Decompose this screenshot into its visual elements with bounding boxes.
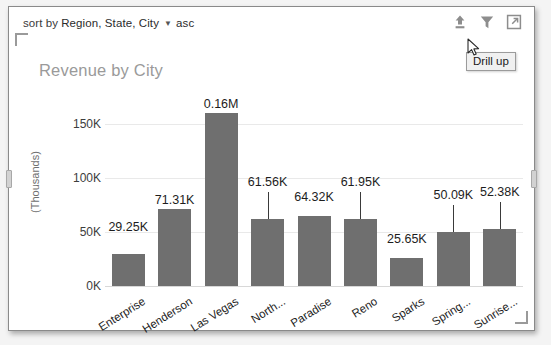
label-leader-line <box>500 202 501 229</box>
y-axis-tick-label: 100K <box>73 171 101 185</box>
gridline <box>105 124 523 125</box>
label-leader-line <box>268 192 269 219</box>
x-axis-category-label[interactable]: Sparks <box>390 295 427 324</box>
x-axis-category-label[interactable]: Las Vegas <box>188 295 240 334</box>
y-axis-title: (Thousands) <box>29 151 41 213</box>
bar-data-label: 50.09K <box>434 188 474 202</box>
bar-data-label: 25.65K <box>387 232 427 246</box>
bar-data-label: 29.25K <box>108 220 148 234</box>
bar[interactable] <box>390 258 423 286</box>
x-axis-category-label[interactable]: Reno <box>350 295 380 320</box>
gridline <box>105 286 523 287</box>
x-axis-category-label[interactable]: Henderson <box>140 295 194 335</box>
drill-up-tooltip: Drill up <box>466 52 516 71</box>
x-axis-category-label[interactable]: Enterprise <box>97 295 148 333</box>
y-axis-tick-label: 150K <box>73 117 101 131</box>
x-axis-category-label[interactable]: North... <box>249 295 287 325</box>
x-axis-category-label[interactable]: Sunrise... <box>472 295 520 331</box>
screenshot-root: sort byRegion, State, City▼asc <box>0 0 551 345</box>
bar-data-label: 71.31K <box>155 193 195 207</box>
bar[interactable] <box>437 232 470 286</box>
chart-plot-area[interactable]: (Thousands) 0K50K100K150K 29.25K71.31K0.… <box>9 7 536 332</box>
bar[interactable] <box>112 254 145 286</box>
x-axis-category-label[interactable]: Paradise <box>289 295 334 329</box>
resize-handle-top-left[interactable] <box>15 33 28 46</box>
bar-data-label: 52.38K <box>480 185 520 199</box>
bar-data-label: 0.16M <box>204 97 239 111</box>
bar[interactable] <box>251 219 284 286</box>
bar[interactable] <box>344 219 377 286</box>
bar-data-label: 61.95K <box>341 175 381 189</box>
y-axis-tick-label: 50K <box>80 225 101 239</box>
bar-data-label: 64.32K <box>294 190 334 204</box>
bar[interactable] <box>483 229 516 286</box>
bar[interactable] <box>298 216 331 286</box>
resize-handle-left[interactable] <box>6 170 12 188</box>
y-axis-ticks: 0K50K100K150K <box>45 7 101 332</box>
chart-visual-container[interactable]: sort byRegion, State, City▼asc <box>8 6 535 331</box>
bar[interactable] <box>205 113 238 286</box>
label-leader-line <box>360 192 361 219</box>
resize-handle-right[interactable] <box>531 170 537 188</box>
resize-handle-bottom-right[interactable] <box>515 311 528 324</box>
label-leader-line <box>453 205 454 232</box>
gridline <box>105 178 523 179</box>
y-axis-tick-label: 0K <box>86 279 101 293</box>
bar-data-label: 61.56K <box>248 175 288 189</box>
x-axis-category-label[interactable]: Spring... <box>430 295 473 328</box>
bar[interactable] <box>158 209 191 286</box>
